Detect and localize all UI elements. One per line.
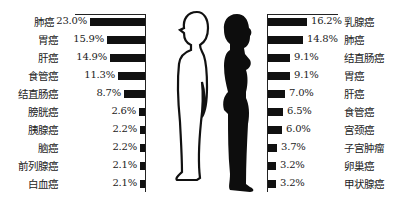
female-bar-row: 9.1%结直肠癌 bbox=[260, 49, 399, 67]
male-bar bbox=[107, 36, 145, 44]
male-bar-row: 2.2%胰腺癌 bbox=[0, 121, 150, 139]
female-chart: 16.2%乳腺癌14.8%肺癌9.1%结直肠癌9.1%胃癌7.0%肝癌6.5%食… bbox=[260, 0, 399, 203]
male-bar bbox=[124, 90, 145, 98]
male-pct-label: 2.2% bbox=[112, 141, 137, 152]
male-bar bbox=[140, 126, 145, 134]
female-pct-label: 6.0% bbox=[286, 123, 311, 134]
female-cancer-label: 结直肠癌 bbox=[344, 50, 384, 65]
female-bar bbox=[268, 180, 276, 188]
female-bar bbox=[268, 162, 276, 170]
male-pct-label: 2.1% bbox=[112, 159, 137, 170]
male-cancer-label: 膀胱癌 bbox=[28, 104, 58, 119]
male-pct-label: 8.7% bbox=[96, 87, 121, 98]
female-bar bbox=[268, 126, 282, 134]
female-cancer-label: 乳腺癌 bbox=[344, 14, 374, 29]
female-bar bbox=[268, 54, 290, 62]
male-bar-row: 15.9%胃癌 bbox=[0, 31, 150, 49]
female-bar-row: 3.2%甲状腺癌 bbox=[260, 175, 399, 193]
male-cancer-label: 前列腺癌 bbox=[18, 158, 58, 173]
male-bar-row: 2.6%膀胱癌 bbox=[0, 103, 150, 121]
male-cancer-label: 脑癌 bbox=[38, 140, 58, 155]
female-bar-row: 14.8%肺癌 bbox=[260, 31, 399, 49]
female-bar bbox=[268, 108, 283, 116]
female-bar-row: 3.7%子宫肿瘤 bbox=[260, 139, 399, 157]
male-bar-row: 23.0%肺癌 bbox=[0, 13, 150, 31]
female-cancer-label: 食管癌 bbox=[344, 104, 374, 119]
female-cancer-label: 胃癌 bbox=[344, 68, 364, 83]
male-bar bbox=[110, 54, 145, 62]
male-cancer-label: 胰腺癌 bbox=[28, 122, 58, 137]
male-cancer-label: 肝癌 bbox=[38, 50, 58, 65]
female-bar-row: 6.5%食管癌 bbox=[260, 103, 399, 121]
male-bar-row: 14.9%肝癌 bbox=[0, 49, 150, 67]
female-bar-row: 7.0%肝癌 bbox=[260, 85, 399, 103]
female-pct-label: 7.0% bbox=[289, 87, 314, 98]
female-bar-row: 16.2%乳腺癌 bbox=[260, 13, 399, 31]
male-cancer-label: 肺癌 bbox=[34, 14, 54, 29]
female-bar-row: 3.2%卵巢癌 bbox=[260, 157, 399, 175]
female-pct-label: 14.8% bbox=[307, 33, 338, 44]
male-bar bbox=[140, 144, 145, 152]
male-bar bbox=[118, 72, 145, 80]
male-bar-row: 2.1%白血癌 bbox=[0, 175, 150, 193]
female-pct-label: 3.2% bbox=[280, 177, 305, 188]
female-cancer-label: 肺癌 bbox=[344, 32, 364, 47]
male-pct-label: 14.9% bbox=[76, 51, 107, 62]
female-bar bbox=[268, 36, 303, 44]
male-chart: 23.0%肺癌15.9%胃癌14.9%肝癌11.3%食管癌8.7%结直肠癌2.6… bbox=[0, 0, 150, 203]
female-pct-label: 3.7% bbox=[281, 141, 306, 152]
male-cancer-label: 结直肠癌 bbox=[18, 86, 58, 101]
female-bar bbox=[268, 72, 290, 80]
male-pct-label: 15.9% bbox=[73, 33, 104, 44]
male-pct-label: 11.3% bbox=[84, 69, 115, 80]
female-cancer-label: 甲状腺癌 bbox=[344, 176, 384, 191]
male-bar-row: 2.2%脑癌 bbox=[0, 139, 150, 157]
female-bar bbox=[268, 18, 307, 26]
male-pct-label: 2.1% bbox=[112, 177, 137, 188]
male-bar-row: 8.7%结直肠癌 bbox=[0, 85, 150, 103]
female-cancer-label: 卵巢癌 bbox=[344, 158, 374, 173]
male-bar-row: 2.1%前列腺癌 bbox=[0, 157, 150, 175]
male-cancer-label: 食管癌 bbox=[28, 68, 58, 83]
male-bar bbox=[140, 180, 145, 188]
female-bar bbox=[268, 144, 277, 152]
female-pct-label: 3.2% bbox=[280, 159, 305, 170]
male-bar bbox=[90, 18, 145, 26]
male-bar bbox=[140, 162, 145, 170]
male-pct-label: 23.0% bbox=[56, 15, 87, 26]
female-bar-row: 9.1%胃癌 bbox=[260, 67, 399, 85]
female-bar bbox=[268, 90, 285, 98]
male-cancer-label: 白血癌 bbox=[28, 176, 58, 191]
male-cancer-label: 胃癌 bbox=[38, 32, 58, 47]
male-bar-row: 11.3%食管癌 bbox=[0, 67, 150, 85]
female-cancer-label: 子宫肿瘤 bbox=[344, 140, 384, 155]
female-pct-label: 9.1% bbox=[294, 69, 319, 80]
female-cancer-label: 肝癌 bbox=[344, 86, 364, 101]
female-pct-label: 6.5% bbox=[287, 105, 312, 116]
male-pct-label: 2.2% bbox=[112, 123, 137, 134]
female-bar-row: 6.0%宫颈癌 bbox=[260, 121, 399, 139]
female-pct-label: 16.2% bbox=[311, 15, 342, 26]
male-pct-label: 2.6% bbox=[111, 105, 136, 116]
female-cancer-label: 宫颈癌 bbox=[344, 122, 374, 137]
female-pct-label: 9.1% bbox=[294, 51, 319, 62]
male-bar bbox=[139, 108, 145, 116]
